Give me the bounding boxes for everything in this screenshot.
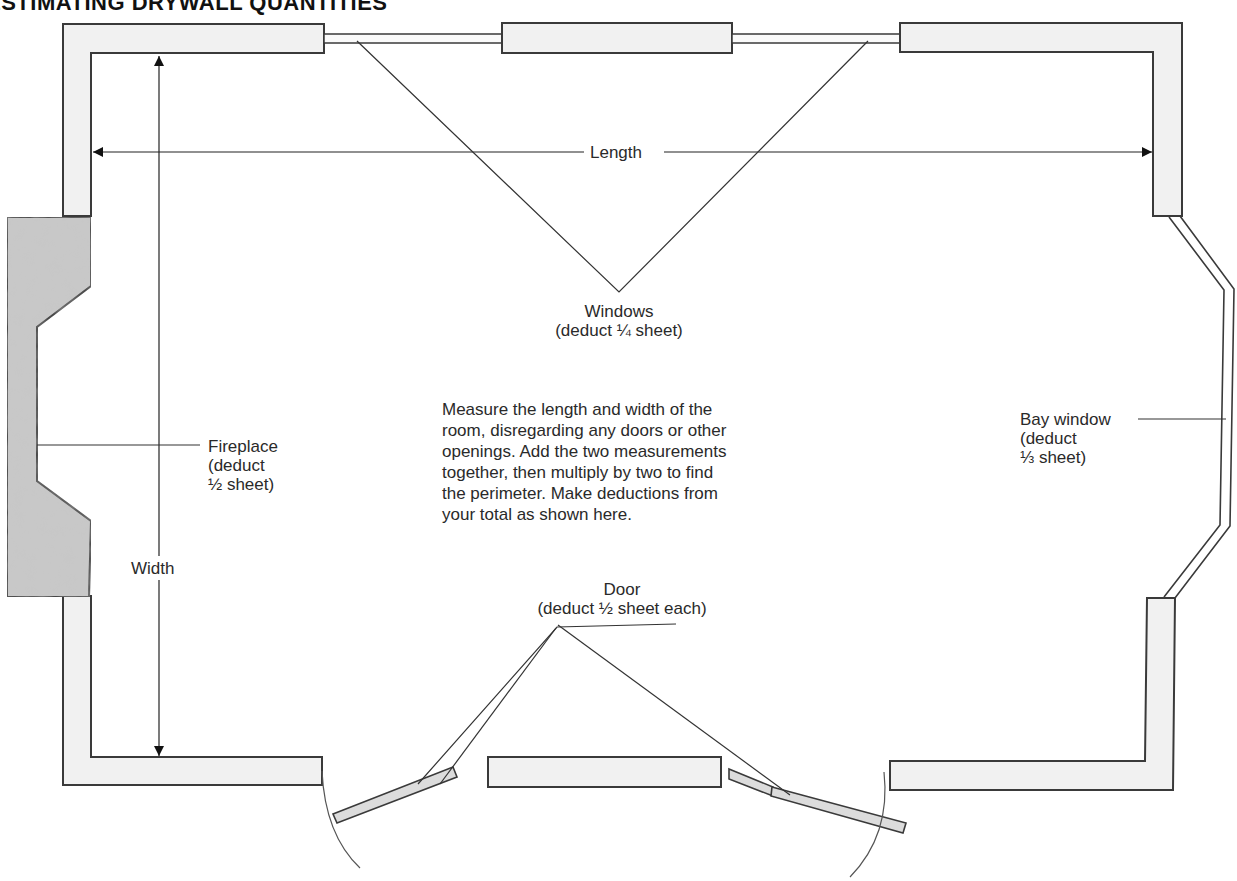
length-label: Length [590, 143, 642, 162]
door-leaf-right [729, 769, 906, 833]
door-callout-deduction: (deduct ½ sheet each) [502, 599, 742, 618]
wall-bottom-left [63, 596, 322, 785]
windows-callout-deduction: (deduct ¼ sheet) [519, 321, 719, 340]
bay-window-callout: Bay window (deduct ⅓ sheet) [1020, 410, 1111, 467]
bay-window-callout-line3: ⅓ sheet) [1020, 448, 1111, 467]
door-callout: Door (deduct ½ sheet each) [502, 580, 742, 618]
wall-top-left [63, 24, 324, 216]
windows-callout: Windows (deduct ¼ sheet) [519, 302, 719, 340]
fireplace-callout-name: Fireplace [208, 437, 278, 456]
instructions-line: room, disregarding any doors or other [442, 420, 802, 441]
fireplace-callout-line2: (deduct [208, 456, 278, 475]
instructions-line: together, then multiply by two to find [442, 462, 802, 483]
bay-window-callout-line2: (deduct [1020, 429, 1111, 448]
door-callout-name: Door [502, 580, 742, 599]
bay-window-callout-name: Bay window [1020, 410, 1111, 429]
top-window-left [324, 34, 502, 43]
fireplace [7, 217, 91, 597]
instructions-line: the perimeter. Make deductions from [442, 483, 802, 504]
bay-window [1164, 216, 1234, 598]
fireplace-callout-line3: ½ sheet) [208, 475, 278, 494]
width-label: Width [131, 559, 174, 578]
wall-top-middle [502, 23, 732, 53]
fireplace-callout: Fireplace (deduct ½ sheet) [208, 437, 278, 494]
wall-top-right [900, 23, 1182, 216]
wall-bottom-middle [488, 757, 721, 787]
instructions-paragraph: Measure the length and width of the room… [442, 399, 802, 525]
instructions-line: Measure the length and width of the [442, 399, 802, 420]
windows-callout-name: Windows [519, 302, 719, 321]
door-leaf-left [333, 767, 457, 823]
instructions-line: your total as shown here. [442, 504, 802, 525]
top-window-right [732, 34, 900, 43]
windows-leader [357, 41, 868, 292]
wall-bottom-right [890, 598, 1175, 790]
instructions-line: openings. Add the two measurements [442, 441, 802, 462]
